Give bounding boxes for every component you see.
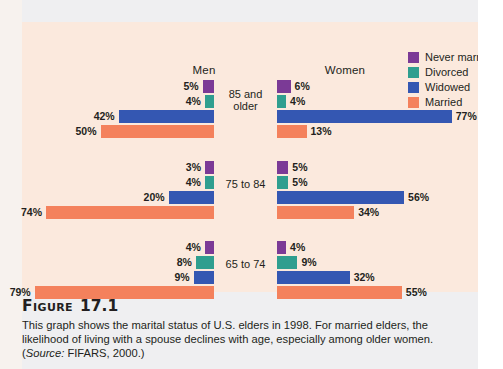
bar-value-label: 9%: [174, 271, 189, 284]
source-label: Source:: [26, 347, 65, 359]
bar-value-label: 5%: [183, 80, 198, 93]
legend-swatch-icon: [408, 67, 419, 78]
bar-group-85-and-older: 5%6%4%4%42%77%50%13%85 andolder: [22, 80, 478, 140]
bar-value-label: 8%: [177, 256, 192, 269]
bar-value-label: 50%: [75, 125, 96, 138]
bar-value-label: 5%: [292, 161, 307, 174]
bar-women-widowed: [277, 110, 452, 123]
age-group-label: 85 andolder: [215, 88, 277, 112]
bar-men-divorced: [196, 256, 214, 269]
bar-men-never-married: [203, 80, 214, 93]
figure-page: Men Women Never marriedDivorcedWidowedMa…: [0, 0, 503, 369]
bar-men-widowed: [119, 110, 214, 123]
age-group-label-line1: 65 to 74: [215, 258, 277, 270]
figure-title-number: 17.1: [80, 297, 118, 315]
caption-body: This graph shows the marital status of U…: [22, 318, 454, 346]
bar-value-label: 4%: [290, 95, 305, 108]
age-group-label: 65 to 74: [215, 258, 277, 270]
bar-men-never-married: [205, 241, 214, 254]
bar-row: 50%13%: [22, 125, 478, 138]
page-right-margin: [478, 0, 503, 369]
figure-title: Figure17.1: [22, 297, 462, 315]
bar-men-married: [101, 125, 215, 138]
age-group-label-line1: 75 to 84: [215, 178, 277, 190]
legend-swatch-icon: [408, 52, 419, 63]
bar-group-75-to-84: 3%5%4%5%20%56%74%34%75 to 84: [22, 161, 478, 221]
caption-source: (Source: FIFARS, 2000.): [22, 346, 462, 360]
bar-women-divorced: [277, 95, 286, 108]
bar-value-label: 13%: [311, 125, 332, 138]
age-group-label-line2: older: [215, 100, 277, 112]
bar-value-label: 6%: [295, 80, 310, 93]
bar-row: 3%5%: [22, 161, 478, 174]
chart-panel: Men Women Never marriedDivorcedWidowedMa…: [22, 22, 478, 292]
bar-group-65-to-74: 4%4%8%9%9%32%79%55%65 to 74: [22, 241, 478, 301]
bar-value-label: 4%: [186, 176, 201, 189]
bar-value-label: 74%: [21, 206, 42, 219]
bar-value-label: 5%: [292, 176, 307, 189]
column-header-women: Women: [317, 64, 373, 76]
bar-value-label: 77%: [456, 110, 477, 123]
bar-women-married: [277, 125, 307, 138]
bar-row: 9%32%: [22, 271, 478, 284]
column-header-men: Men: [179, 64, 229, 76]
bar-row: 74%34%: [22, 206, 478, 219]
legend-label: Divorced: [425, 67, 468, 78]
figure-caption: Figure17.1 This graph shows the marital …: [22, 297, 462, 361]
bar-men-divorced: [205, 95, 214, 108]
bar-men-divorced: [205, 176, 214, 189]
bar-value-label: 4%: [186, 241, 201, 254]
bar-value-label: 4%: [290, 241, 305, 254]
bar-value-label: 32%: [354, 271, 375, 284]
bar-women-divorced: [277, 256, 297, 269]
age-group-label-line1: 85 and: [215, 88, 277, 100]
bar-men-married: [46, 206, 214, 219]
bar-women-never-married: [277, 241, 286, 254]
bar-value-label: 42%: [94, 110, 115, 123]
bar-row: 20%56%: [22, 191, 478, 204]
bar-value-label: 20%: [144, 191, 165, 204]
bar-women-never-married: [277, 80, 291, 93]
bar-value-label: 34%: [358, 206, 379, 219]
bar-row: 4%4%: [22, 241, 478, 254]
bar-men-never-married: [205, 161, 214, 174]
source-value: FIFARS, 2000.): [67, 347, 144, 359]
bar-value-label: 56%: [408, 191, 429, 204]
bar-women-widowed: [277, 271, 350, 284]
bar-men-widowed: [169, 191, 214, 204]
bar-value-label: 4%: [186, 95, 201, 108]
bar-men-widowed: [194, 271, 214, 284]
bar-women-divorced: [277, 176, 288, 189]
bar-women-married: [277, 206, 354, 219]
bar-value-label: 9%: [301, 256, 316, 269]
figure-title-word: Figure: [22, 297, 73, 315]
bar-women-widowed: [277, 191, 404, 204]
bar-women-never-married: [277, 161, 288, 174]
page-gutter: [0, 0, 22, 369]
age-group-label: 75 to 84: [215, 178, 277, 190]
bar-value-label: 3%: [186, 161, 201, 174]
